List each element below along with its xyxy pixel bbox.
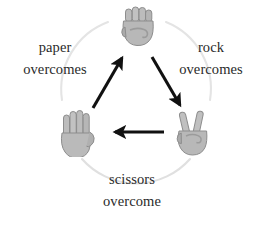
raised-fist-icon (114, 3, 160, 53)
label-scissors-verb: overcome (72, 194, 192, 209)
paper-hand-icon (54, 107, 100, 157)
label-scissors-subject: scissors (72, 172, 192, 187)
label-paper-verb: overcomes (0, 62, 110, 77)
label-paper-subject: paper (0, 40, 110, 55)
scissors-hand-icon (169, 107, 215, 157)
label-rock-verb: overcomes (158, 62, 264, 77)
open-palm-icon (54, 107, 100, 157)
label-rock-subject: rock (158, 40, 264, 55)
rock-paper-scissors-diagram: paper overcomes rock overcomes scissors … (0, 0, 264, 228)
rock-hand-icon (114, 3, 160, 53)
victory-hand-icon (169, 107, 215, 157)
